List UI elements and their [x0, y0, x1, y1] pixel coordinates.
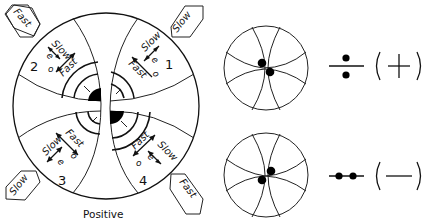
- svg-text:o: o: [151, 68, 162, 79]
- small-figure-upper: (+): [224, 26, 421, 110]
- sign-negative: (—): [377, 162, 421, 190]
- sign-positive: (+): [377, 52, 421, 80]
- inner-arrows: [84, 86, 127, 127]
- tag-bottom-right: Fast: [170, 174, 203, 214]
- field-of-view-circle: [13, 13, 199, 199]
- main-interference-figure: Fast Slow Slow Fast: [5, 5, 203, 220]
- melatope-upper-left: [88, 88, 101, 101]
- small-circle-lower: [224, 133, 308, 217]
- tag-top-right: Slow: [170, 6, 203, 37]
- isogyre-boundaries: [18, 18, 194, 193]
- svg-text:Fast: Fast: [64, 127, 87, 150]
- interference-figure-diagram: Fast Slow Slow Fast: [0, 0, 429, 224]
- quadrant-3-number: 3: [58, 173, 66, 188]
- melatope-dot: [258, 176, 267, 185]
- quadrant-3: Fast o Slow e 3: [40, 127, 87, 188]
- small-figure-lower: (—): [224, 133, 421, 217]
- quadrant-4: Fast o Slow e 4: [129, 128, 181, 188]
- tag-bottom-right-label: Fast: [177, 176, 199, 200]
- tag-top-right-label: Slow: [170, 8, 194, 34]
- svg-text:Slow: Slow: [139, 28, 164, 53]
- tag-top-left: Fast: [5, 5, 40, 37]
- symbol-upper: [329, 54, 364, 78]
- svg-text:o: o: [48, 64, 54, 74]
- tag-bottom-left-label: Slow: [7, 171, 31, 197]
- quadrant-1-number: 1: [165, 57, 173, 72]
- quadrant-1: Slow e Fast o 1: [127, 28, 174, 81]
- svg-text:Fast: Fast: [127, 58, 150, 81]
- svg-text:e: e: [56, 156, 67, 167]
- svg-text:e: e: [146, 151, 157, 162]
- svg-text:Slow: Slow: [40, 132, 65, 157]
- quadrant-2-number: 2: [30, 59, 38, 74]
- melatope-dot: [258, 59, 267, 68]
- svg-text:e: e: [150, 54, 161, 65]
- svg-text:Slow: Slow: [156, 139, 181, 164]
- melatope-dot: [267, 167, 276, 176]
- tag-bottom-left: Slow: [6, 171, 40, 200]
- svg-text:o: o: [69, 150, 80, 161]
- main-caption: Positive: [83, 208, 123, 220]
- quadrant-4-number: 4: [139, 173, 147, 188]
- melatope-dot: [266, 68, 275, 77]
- symbol-lower: [329, 172, 364, 179]
- svg-text:Fast: Fast: [129, 128, 152, 151]
- svg-text:o: o: [136, 158, 142, 168]
- svg-text:e: e: [45, 50, 56, 61]
